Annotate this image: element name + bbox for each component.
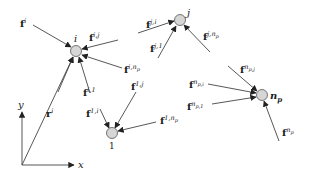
force-labels: fi fi,j fi,np fi,1 fj,i fj,1 fj,np f1,i — [20, 17, 295, 138]
node-j — [175, 15, 186, 26]
force-arrow-1-np — [118, 122, 156, 131]
node-label-1: 1 — [109, 141, 115, 151]
node-label-np: np — [270, 90, 282, 104]
force-arrow-1-j — [115, 92, 136, 128]
coordinate-axes: y x ri — [17, 57, 84, 170]
force-label-i: fi — [20, 17, 26, 29]
force-arrow-np-ext — [264, 101, 279, 141]
force-arrow-i-lower-left — [58, 57, 73, 92]
node-label-i: i — [74, 33, 77, 44]
force-label-np-i: fnp,i — [189, 78, 204, 90]
force-label-1-j: f1,j — [131, 80, 144, 92]
force-label-i-1: fi,1 — [83, 86, 96, 98]
x-axis-label: x — [78, 159, 84, 170]
force-arrow-i-np — [82, 55, 122, 68]
nodes: i j 1 np — [71, 7, 283, 151]
force-label-i-j: fi,j — [89, 31, 99, 43]
force-arrow-i-ext — [33, 25, 71, 47]
node-1 — [107, 128, 118, 139]
position-vector-label: ri — [46, 107, 53, 119]
force-label-np-ext: fnp — [282, 126, 295, 138]
node-np — [257, 90, 268, 101]
force-diagram: y x ri i j 1 np — [0, 0, 309, 176]
force-arrow-1-i — [100, 109, 109, 128]
node-label-j: j — [185, 7, 190, 18]
force-label-i-np: fi,np — [124, 63, 141, 75]
y-axis-label: y — [17, 99, 24, 110]
force-label-1-np: f1,np — [160, 114, 179, 126]
node-i — [71, 46, 82, 57]
force-label-1-i: f1,i — [86, 107, 99, 119]
force-label-j-1: fj,1 — [150, 42, 163, 54]
force-label-np-1: fnp,1 — [187, 100, 203, 112]
force-arrow-np-i — [208, 84, 256, 93]
force-arrow-np-1 — [212, 97, 256, 104]
force-arrows — [33, 21, 279, 141]
force-arrow-i-j — [82, 40, 118, 49]
force-label-j-np: fj,np — [203, 30, 220, 42]
force-label-np-j: fnp,j — [240, 63, 255, 75]
